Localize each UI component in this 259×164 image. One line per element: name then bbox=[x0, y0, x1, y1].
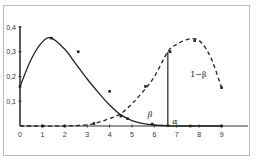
annotation-layer: 1−ββα bbox=[147, 70, 207, 126]
x-tick-label: 1 bbox=[40, 131, 44, 138]
data-point-solid bbox=[126, 117, 129, 120]
y-tick-label: 0,3 bbox=[6, 48, 16, 55]
annotation-alpha: α bbox=[172, 117, 178, 126]
data-point-solid bbox=[151, 123, 154, 126]
data-point-dashed bbox=[169, 50, 172, 53]
annotation-power: 1−β bbox=[190, 70, 207, 79]
axes: 0,10,20,30,40123456789 bbox=[6, 24, 248, 139]
data-point-dashed bbox=[41, 125, 44, 128]
annotation-beta: β bbox=[147, 110, 153, 119]
data-point-solid bbox=[50, 37, 53, 40]
x-tick-label: 0 bbox=[18, 131, 22, 138]
data-point-dashed bbox=[193, 39, 196, 42]
data-point-solid bbox=[108, 90, 111, 93]
data-point-dashed bbox=[220, 86, 223, 89]
data-point-solid bbox=[167, 124, 170, 127]
y-tick-label: 0,4 bbox=[6, 24, 16, 31]
data-point-solid bbox=[77, 50, 80, 53]
x-tick-label: 8 bbox=[197, 131, 201, 138]
series-layer bbox=[20, 38, 222, 126]
x-tick-label: 7 bbox=[175, 131, 179, 138]
x-tick-label: 2 bbox=[63, 131, 67, 138]
data-point-dashed bbox=[144, 85, 147, 88]
data-point-solid bbox=[19, 85, 22, 88]
series-line-dashed bbox=[20, 39, 222, 126]
data-point-dashed bbox=[120, 115, 123, 118]
chart: 0,10,20,30,40123456789 1−ββα bbox=[0, 0, 259, 164]
data-point-dashed bbox=[64, 125, 67, 128]
y-tick-label: 0,2 bbox=[6, 73, 16, 80]
x-tick-label: 6 bbox=[152, 131, 156, 138]
series-line-solid bbox=[20, 38, 222, 126]
y-tick-label: 0,1 bbox=[6, 98, 16, 105]
x-tick-label: 9 bbox=[220, 131, 224, 138]
data-point-dashed bbox=[93, 122, 96, 125]
data-point-solid bbox=[189, 125, 192, 128]
x-tick-label: 5 bbox=[130, 131, 134, 138]
x-tick-label: 3 bbox=[85, 131, 89, 138]
x-tick-label: 4 bbox=[108, 131, 112, 138]
marker-layer bbox=[19, 37, 223, 127]
data-point-solid bbox=[220, 125, 223, 128]
